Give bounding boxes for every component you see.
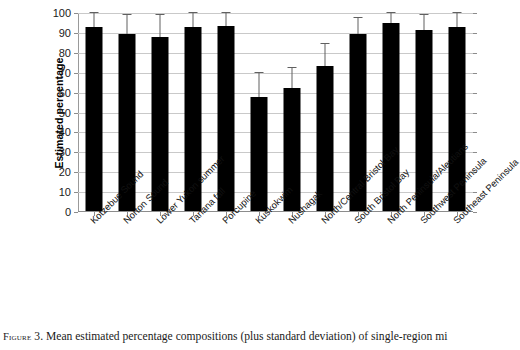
error-bar-stem <box>390 13 391 23</box>
error-bar-cap <box>353 17 362 18</box>
y-axis-tick-label: 10 <box>59 186 71 198</box>
error-bar-cap <box>386 12 395 13</box>
error-bar-cap <box>287 67 296 68</box>
y-axis-tick-right <box>473 93 477 94</box>
y-axis-tick-label: 100 <box>53 7 71 19</box>
y-axis-tick-label: 0 <box>65 206 71 218</box>
y-axis-tick-label: 30 <box>59 146 71 158</box>
error-bar-stem <box>423 15 424 30</box>
error-bar-cap <box>90 12 99 13</box>
error-bar-cap <box>123 14 132 15</box>
bar-group[interactable] <box>243 13 276 212</box>
y-axis-tick-right <box>473 53 477 54</box>
y-axis-tick-right <box>473 13 477 14</box>
error-bar-stem <box>357 18 358 34</box>
error-bar-stem <box>127 15 128 34</box>
error-bar-cap <box>156 14 165 15</box>
error-bar-cap <box>189 12 198 13</box>
error-bar-stem <box>324 44 325 66</box>
error-bar-cap <box>255 72 264 73</box>
error-bar-stem <box>160 15 161 37</box>
y-axis-tick-right <box>473 73 477 74</box>
y-axis-tick-right <box>473 152 477 153</box>
y-axis-tick-label: 40 <box>59 126 71 138</box>
error-bar-stem <box>193 13 194 27</box>
y-axis-tick-label: 70 <box>59 67 71 79</box>
y-axis-tick-label: 20 <box>59 166 71 178</box>
bar[interactable] <box>86 27 103 212</box>
bar-group[interactable] <box>78 13 111 212</box>
error-bar-stem <box>259 73 260 97</box>
error-bar-stem <box>291 68 292 88</box>
error-bar-cap <box>320 43 329 44</box>
y-axis-tick-right <box>473 33 477 34</box>
error-bar-stem <box>94 13 95 27</box>
figure-caption: Figure 3. Mean estimated percentage comp… <box>3 330 495 343</box>
y-axis-tick-right <box>473 212 477 213</box>
figure-caption-prefix: Figure <box>3 331 31 342</box>
error-bar-cap <box>419 14 428 15</box>
error-bar-stem <box>226 13 227 26</box>
error-bar-cap <box>222 12 231 13</box>
bar-group[interactable] <box>276 13 309 212</box>
bar-group[interactable] <box>308 13 341 212</box>
error-bar-cap <box>452 12 461 13</box>
y-axis-tick-right <box>473 113 477 114</box>
y-axis-tick-right <box>473 132 477 133</box>
error-bar-stem <box>456 13 457 27</box>
y-axis-tick-label: 90 <box>59 27 71 39</box>
x-axis-tick-labels: Kotzebue SoundNorton SoundLower Yukon su… <box>78 212 473 312</box>
y-axis-tick-label: 80 <box>59 47 71 59</box>
bar-group[interactable] <box>210 13 243 212</box>
figure-caption-text: 3. Mean estimated percentage composition… <box>31 330 447 343</box>
y-axis-tick-label: 60 <box>59 87 71 99</box>
y-axis-tick-label: 50 <box>59 107 71 119</box>
bar[interactable] <box>218 26 235 212</box>
